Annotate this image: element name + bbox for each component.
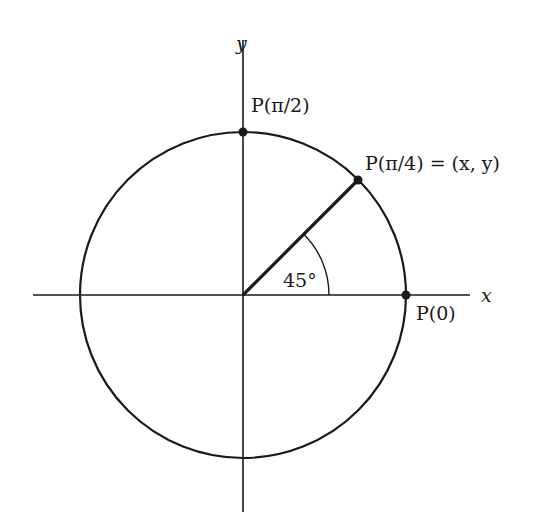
angle-label: 45° xyxy=(283,269,317,291)
label-p0: P(0) xyxy=(416,302,456,324)
label-p-pi-over-2: P(π/2) xyxy=(251,94,310,116)
point-p0 xyxy=(402,291,411,300)
x-axis-label: x xyxy=(481,284,492,306)
label-p-pi-over-4: P(π/4) = (x, y) xyxy=(365,152,500,174)
unit-circle-diagram: y x P(π/2) P(π/4) = (x, y) P(0) 45° xyxy=(0,0,533,528)
point-p-pi-over-2 xyxy=(239,128,248,137)
y-axis-label: y xyxy=(235,32,247,54)
point-p-pi-over-4 xyxy=(354,176,363,185)
